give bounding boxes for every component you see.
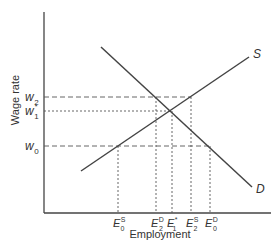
y-axis-label: Wage rate	[9, 75, 21, 125]
employment-label-E0S: ES0	[113, 216, 126, 232]
wage-label-w0: w0	[25, 139, 39, 156]
demand-curve	[101, 47, 252, 187]
supply-curve-label: S	[253, 47, 261, 61]
labor-market-diagram: w2w1*w0ES0ED2E*1ES2ED0SD Wage rate Emplo…	[0, 0, 279, 245]
labels: w2w1*w0ES0ED2E*1ES2ED0SD	[25, 47, 265, 232]
wage-label-w1: w1*	[25, 103, 39, 121]
curves	[81, 47, 252, 187]
demand-curve-label: D	[256, 182, 265, 196]
supply-curve	[81, 57, 249, 171]
guide-lines	[44, 97, 210, 213]
employment-label-E0D: ED0	[205, 216, 218, 232]
x-axis-label: Employment	[129, 228, 190, 240]
